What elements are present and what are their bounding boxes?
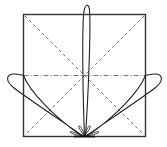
vertical-lobe xyxy=(83,5,90,136)
right-lobe xyxy=(86,74,161,136)
diagram-canvas xyxy=(0,0,167,147)
radiation-pattern-diagram xyxy=(0,0,167,147)
left-lobe xyxy=(8,74,83,136)
